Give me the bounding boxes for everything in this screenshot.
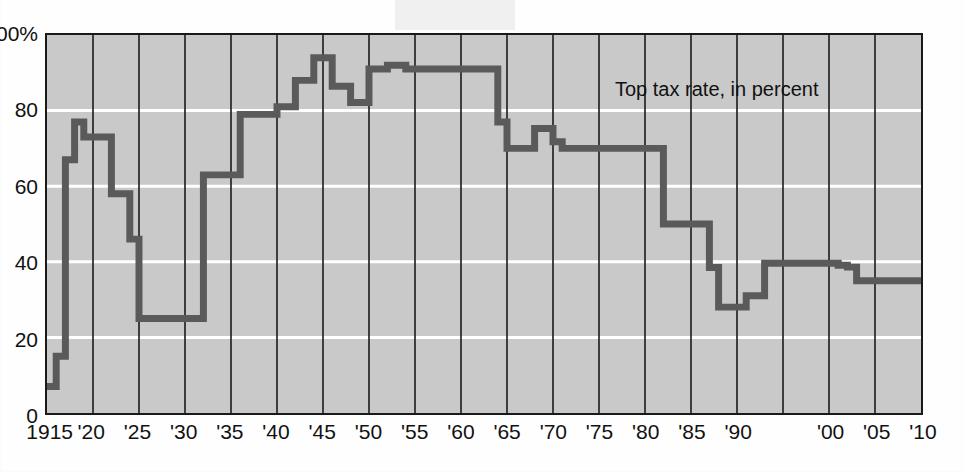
x-axis-tick-label: '45 — [309, 420, 336, 444]
x-axis-tick-label: '50 — [355, 420, 382, 444]
x-axis-tick-label: '30 — [170, 420, 197, 444]
y-axis-tick-label: 40 — [15, 252, 38, 273]
x-axis-tick-label: '65 — [493, 420, 520, 444]
y-axis-tick-label: 100% — [0, 23, 38, 44]
x-axis-tick-label: '25 — [124, 420, 151, 444]
x-axis-tick-label: '80 — [632, 420, 659, 444]
x-axis-tick-label: '60 — [447, 420, 474, 444]
x-axis-labels: 1915'20'25'30'35'40'45'50'55'60'65'70'75… — [0, 418, 965, 458]
x-axis-tick-label: '10 — [909, 420, 936, 444]
x-axis-tick-label: '90 — [724, 420, 751, 444]
y-axis-tick-label: 20 — [15, 328, 38, 349]
x-axis-tick-label: '70 — [540, 420, 567, 444]
plot-area: Top tax rate, in percent — [45, 33, 923, 415]
x-axis-tick-label: '00 — [817, 420, 844, 444]
chart-root: 020406080100% Top tax rate, in percent 1… — [0, 0, 965, 472]
x-axis-tick-label: '35 — [216, 420, 243, 444]
horizontal-gridlines — [47, 111, 921, 338]
y-axis-labels: 020406080100% — [0, 0, 42, 472]
x-axis-tick-label: '55 — [401, 420, 428, 444]
y-axis-tick-label: 60 — [15, 175, 38, 196]
x-axis-tick-label: '05 — [863, 420, 890, 444]
y-axis-tick-label: 80 — [15, 99, 38, 120]
x-axis-tick-label: '20 — [78, 420, 105, 444]
scan-smudge-top — [395, 0, 515, 30]
x-axis-tick-label: 1915 — [26, 420, 73, 444]
x-axis-tick-label: '40 — [262, 420, 289, 444]
x-axis-tick-label: '85 — [678, 420, 705, 444]
x-axis-tick-label: '75 — [586, 420, 613, 444]
series-annotation-label: Top tax rate, in percent — [615, 77, 818, 101]
